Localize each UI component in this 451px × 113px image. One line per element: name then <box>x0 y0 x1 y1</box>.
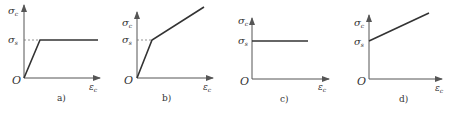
panel-d: σc σs O εc d) <box>354 13 444 104</box>
origin-label: O <box>357 75 366 88</box>
y-axis-label: σc <box>238 15 249 27</box>
y-axis-label: σc <box>122 17 133 29</box>
yield-level-label: σs <box>238 35 248 47</box>
yield-level-label: σs <box>122 34 132 46</box>
panel-c: σc σs O εc c) <box>238 15 329 104</box>
panel-caption: c) <box>280 94 289 104</box>
panel-caption: b) <box>162 93 171 103</box>
x-axis-label: εc <box>435 83 444 94</box>
origin-label: O <box>124 74 133 87</box>
origin-label: O <box>240 75 249 88</box>
stress-strain-curve <box>369 13 429 41</box>
yield-level-label: σs <box>354 36 364 48</box>
panel-b: σc σs O εc b) <box>122 7 213 103</box>
origin-label: O <box>12 74 21 87</box>
x-axis-label: εc <box>203 82 212 93</box>
panel-caption: d) <box>399 94 408 104</box>
panel-caption: a) <box>57 93 66 103</box>
stress-strain-curve <box>137 7 204 78</box>
yield-level-label: σs <box>8 34 18 46</box>
x-axis-label: εc <box>318 82 327 93</box>
y-axis-label: σc <box>8 5 19 17</box>
y-axis-label: σc <box>354 17 365 29</box>
stress-strain-curve <box>24 40 98 78</box>
x-axis-label: εc <box>89 82 98 93</box>
stress-strain-figure: σc σs O εc a) σc σs O εc b) σc σs O εc c… <box>0 0 451 113</box>
panel-a: σc σs O εc a) <box>8 5 100 103</box>
